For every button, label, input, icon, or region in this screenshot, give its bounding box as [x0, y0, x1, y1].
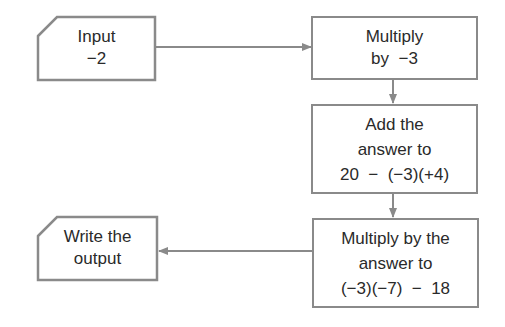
multiply-by-answer-node: Multiply by the answer to (−3)(−7) − 18 — [312, 218, 479, 308]
multiply2-line-3: (−3)(−7) − 18 — [341, 276, 450, 301]
add-line-3: 20 − (−3)(+4) — [340, 162, 449, 187]
multiply-by-line-2: by −3 — [371, 48, 418, 70]
input-node-line-2: −2 — [87, 48, 106, 70]
output-node-line-2: output — [74, 248, 121, 270]
add-line-2: answer to — [358, 137, 432, 162]
multiply2-line-2: answer to — [359, 251, 433, 276]
add-line-1: Add the — [365, 112, 424, 137]
multiply-by-line-1: Multiply — [366, 26, 424, 48]
input-node-line-1: Input — [78, 26, 116, 48]
input-node: Input −2 — [40, 17, 153, 79]
multiply-by-node: Multiply by −3 — [311, 16, 478, 80]
output-node-line-1: Write the — [64, 226, 132, 248]
multiply2-line-1: Multiply by the — [341, 226, 450, 251]
output-node: Write the output — [40, 217, 155, 279]
add-node: Add the answer to 20 − (−3)(+4) — [311, 104, 478, 194]
